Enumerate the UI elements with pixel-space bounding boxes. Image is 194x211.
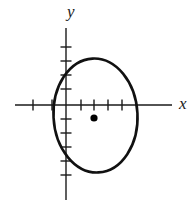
x-axis-label: x bbox=[178, 94, 187, 113]
ellipse-center-point bbox=[90, 114, 97, 121]
graph-canvas: x y bbox=[0, 0, 194, 211]
y-axis-label: y bbox=[65, 2, 75, 21]
ellipse-graph-figure: x y bbox=[0, 0, 194, 211]
